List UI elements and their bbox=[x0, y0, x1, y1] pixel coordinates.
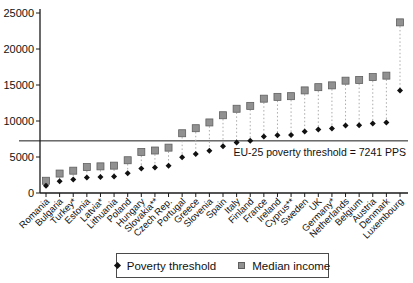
median-income-square-icon bbox=[238, 262, 245, 269]
median-income-marker bbox=[274, 93, 281, 100]
median-income-marker bbox=[383, 72, 390, 79]
legend-label-median-income: Median income bbox=[252, 260, 330, 272]
poverty-threshold-marker bbox=[247, 138, 253, 144]
median-income-marker bbox=[165, 144, 172, 151]
median-income-marker bbox=[138, 148, 145, 155]
poverty-threshold-marker bbox=[356, 122, 362, 128]
poverty-threshold-diamond-icon bbox=[114, 262, 121, 269]
chart-figure: 0500010000150002000025000EU-25 poverty t… bbox=[0, 0, 413, 283]
poverty-threshold-marker bbox=[370, 120, 376, 126]
poverty-threshold-marker bbox=[315, 126, 321, 132]
legend-item-median-income: Median income bbox=[238, 260, 330, 272]
median-income-marker bbox=[220, 112, 227, 119]
poverty-threshold-marker bbox=[288, 132, 294, 138]
median-income-marker bbox=[356, 76, 363, 83]
poverty-threshold-marker bbox=[302, 128, 308, 134]
poverty-threshold-marker bbox=[57, 178, 63, 184]
y-axis-tick-label: 20000 bbox=[3, 43, 34, 55]
median-income-marker bbox=[328, 82, 335, 89]
poverty-threshold-marker bbox=[179, 154, 185, 160]
poverty-threshold-marker bbox=[70, 177, 76, 183]
y-axis-tick-label: 25000 bbox=[3, 7, 34, 19]
median-income-marker bbox=[233, 105, 240, 112]
poverty-threshold-marker bbox=[220, 143, 226, 149]
median-income-marker bbox=[369, 74, 376, 81]
poverty-threshold-marker bbox=[343, 123, 349, 129]
median-income-marker bbox=[315, 84, 322, 91]
median-income-marker bbox=[111, 162, 118, 169]
median-income-marker bbox=[124, 157, 131, 164]
median-income-marker bbox=[288, 93, 295, 100]
poverty-threshold-marker bbox=[84, 174, 90, 180]
median-income-marker bbox=[56, 170, 63, 177]
median-income-marker bbox=[397, 19, 404, 26]
poverty-threshold-marker bbox=[111, 174, 117, 180]
poverty-threshold-marker bbox=[193, 151, 199, 157]
median-income-marker bbox=[301, 87, 308, 94]
median-income-marker bbox=[83, 164, 90, 171]
poverty-threshold-marker bbox=[234, 139, 240, 145]
y-axis-tick-label: 15000 bbox=[3, 79, 34, 91]
legend-label-poverty-threshold: Poverty threshold bbox=[127, 260, 217, 272]
y-axis-tick-label: 10000 bbox=[3, 115, 34, 127]
median-income-marker bbox=[179, 130, 186, 137]
poverty-threshold-marker bbox=[152, 165, 158, 171]
poverty-threshold-marker bbox=[206, 148, 212, 154]
chart-legend: Poverty threshold Median income bbox=[116, 253, 329, 278]
median-income-marker bbox=[151, 147, 158, 154]
poverty-threshold-marker bbox=[125, 170, 131, 176]
poverty-threshold-marker bbox=[97, 174, 103, 180]
median-income-marker bbox=[342, 77, 349, 84]
median-income-marker bbox=[260, 95, 267, 102]
poverty-threshold-marker bbox=[274, 132, 280, 138]
median-income-marker bbox=[70, 167, 77, 174]
poverty-threshold-marker bbox=[329, 125, 335, 131]
poverty-threshold-marker bbox=[138, 165, 144, 171]
median-income-marker bbox=[206, 119, 213, 126]
threshold-annotation: EU-25 poverty threshold = 7241 PPS bbox=[234, 146, 406, 158]
poverty-threshold-marker bbox=[166, 163, 172, 169]
poverty-threshold-marker bbox=[261, 133, 267, 139]
y-axis-tick-label: 0 bbox=[28, 187, 34, 199]
chart-canvas: 0500010000150002000025000EU-25 poverty t… bbox=[0, 0, 413, 283]
y-axis-tick-label: 5000 bbox=[10, 151, 34, 163]
median-income-marker bbox=[247, 102, 254, 109]
median-income-marker bbox=[192, 125, 199, 132]
poverty-threshold-marker bbox=[383, 120, 389, 126]
poverty-threshold-marker bbox=[397, 88, 403, 94]
median-income-marker bbox=[97, 163, 104, 170]
legend-item-poverty-threshold: Poverty threshold bbox=[115, 260, 217, 272]
